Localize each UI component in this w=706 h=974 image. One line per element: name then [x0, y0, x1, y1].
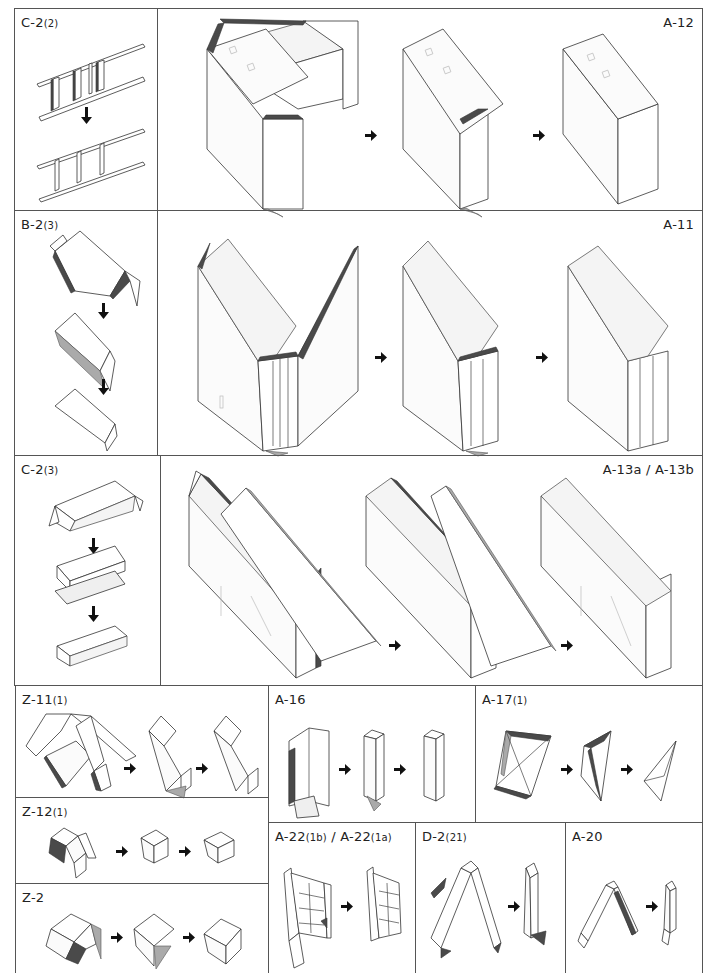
panel-a20: A-20	[565, 822, 703, 973]
arrow-right-icon	[339, 764, 351, 775]
arrow-right-icon	[536, 352, 548, 363]
arrow-down-icon	[102, 379, 105, 389]
panel-z12-1: Z-12(1)	[15, 797, 269, 884]
panel-b2-3: B-2(3)	[14, 210, 158, 456]
arm-fold-illustration	[16, 686, 270, 799]
v-strip-fold-illustration	[416, 823, 567, 974]
arrow-down-icon	[92, 538, 95, 548]
arrow-right-icon	[124, 763, 136, 774]
tetrahedron-fold-illustration	[476, 686, 704, 824]
arrow-down-icon	[92, 606, 95, 616]
small-cube-fold-illustration	[16, 798, 270, 885]
arrow-right-icon	[341, 901, 353, 912]
arrow-right-icon	[561, 764, 573, 775]
panel-a17-1: A-17(1)	[475, 685, 703, 823]
panel-a22: A-22(1b) / A-22(1a)	[268, 822, 416, 973]
panel-c2-3: C-2(3)	[14, 455, 161, 686]
arrow-right-icon	[389, 640, 401, 651]
panel-z2: Z-2	[15, 883, 269, 973]
arrow-right-icon	[533, 130, 545, 141]
tray-fold-illustration	[15, 456, 162, 687]
panel-d2-21: D-2(21)	[415, 822, 566, 973]
panel-c2-2: C-2(2)	[14, 8, 158, 211]
panel-a11: A-11	[157, 210, 703, 456]
panel-a12: A-12	[157, 8, 703, 211]
arrow-right-icon	[196, 763, 208, 774]
long-box-fold-illustration	[161, 456, 704, 687]
arrow-down-icon	[85, 107, 88, 118]
prism-fold-illustration	[15, 211, 159, 457]
ladder-panel-fold-illustration	[269, 823, 417, 974]
ladder-fold-illustration	[15, 9, 159, 212]
arrow-right-icon	[621, 764, 633, 775]
box-fold-illustration	[158, 9, 704, 212]
arrow-right-icon	[646, 901, 658, 912]
arrow-right-icon	[508, 901, 520, 912]
column-fold-illustration	[269, 686, 477, 824]
panel-a13: A-13a / A-13b	[160, 455, 703, 686]
arrow-right-icon	[116, 846, 128, 857]
arrow-right-icon	[375, 352, 387, 363]
rounded-body-fold-illustration	[158, 211, 704, 457]
rhombic-block-fold-illustration	[16, 884, 270, 974]
small-v-strip-fold-illustration	[566, 823, 704, 974]
arrow-right-icon	[179, 846, 191, 857]
arrow-right-icon	[365, 130, 377, 141]
panel-a16: A-16	[268, 685, 476, 823]
panel-z11-1: Z-11(1)	[15, 685, 269, 798]
arrow-right-icon	[394, 764, 406, 775]
arrow-right-icon	[183, 932, 195, 943]
arrow-right-icon	[111, 932, 123, 943]
arrow-down-icon	[102, 303, 105, 313]
arrow-right-icon	[561, 640, 573, 651]
